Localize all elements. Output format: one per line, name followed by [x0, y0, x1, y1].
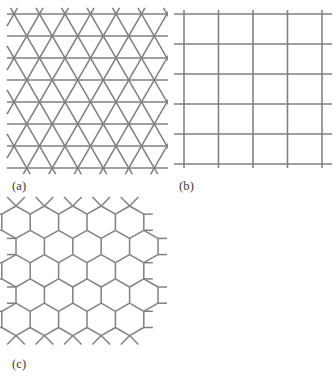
boundary-stub-top: [36, 197, 45, 206]
lattice-line-diagonal-left: [49, 8, 145, 174]
panel-triangular-lattice: [0, 0, 168, 176]
panel-label-c: (c): [12, 358, 26, 371]
boundary-stub-bottom: [73, 336, 82, 345]
hexagon-edge-diagonal: [44, 303, 58, 311]
hexagon-edge-diagonal: [101, 255, 115, 263]
hexagon-edge-diagonal: [101, 230, 115, 238]
hexagon-edge-diagonal: [2, 255, 16, 263]
hexagon-edge-diagonal: [87, 328, 101, 336]
hexagon-edge-diagonal: [73, 303, 87, 311]
boundary-stub-top: [16, 197, 25, 206]
hexagon-edge-diagonal: [87, 279, 101, 287]
hexagon-edge-diagonal: [87, 230, 101, 238]
boundary-stub-bottom: [101, 336, 110, 345]
boundary-stub-bottom: [64, 336, 73, 345]
hexagon-edge-diagonal: [101, 303, 115, 311]
hexagon-edge-diagonal: [2, 303, 16, 311]
hexagon-edge-diagonal: [2, 328, 16, 336]
hexagon-edge-diagonal: [59, 328, 73, 336]
hexagon-edge-diagonal: [87, 206, 101, 214]
hexagon-edge-diagonal: [2, 206, 16, 214]
hexagon-edge-diagonal: [16, 206, 30, 214]
boundary-stub-bottom: [121, 336, 130, 345]
hexagon-edge-diagonal: [73, 206, 87, 214]
hexagon-edge-diagonal: [2, 279, 16, 287]
square-lattice-drawing: [168, 0, 336, 176]
boundary-stub-bottom: [7, 336, 16, 345]
boundary-stub-top: [64, 197, 73, 206]
hexagon-edge-diagonal: [130, 230, 144, 238]
lattice-figure: (a) (b) (c): [0, 0, 336, 388]
hexagon-edge-diagonal: [73, 328, 87, 336]
boundary-stub-bottom: [44, 336, 53, 345]
hexagon-edge-diagonal: [115, 255, 129, 263]
hexagon-edge-diagonal: [59, 255, 73, 263]
hexagon-edge-diagonal: [44, 255, 58, 263]
boundary-stub-bottom: [16, 336, 25, 345]
hexagon-edge-diagonal: [115, 328, 129, 336]
boundary-stub-bottom: [36, 336, 45, 345]
hexagon-edge-diagonal: [16, 255, 30, 263]
lattice-line-diagonal-right: [36, 8, 132, 174]
hexagon-edge-diagonal: [30, 230, 44, 238]
hexagon-edge-diagonal: [87, 255, 101, 263]
hexagon-edge-diagonal: [130, 303, 144, 311]
hexagon-edge-diagonal: [59, 279, 73, 287]
hexagon-edge-diagonal: [73, 255, 87, 263]
boundary-stub-top: [130, 197, 139, 206]
hexagon-edge-diagonal: [73, 230, 87, 238]
hexagon-edge-diagonal: [73, 279, 87, 287]
hexagon-edge-diagonal: [144, 303, 158, 311]
hexagon-edge-diagonal: [59, 230, 73, 238]
hexagon-edge-diagonal: [130, 255, 144, 263]
hexagon-edge-diagonal: [101, 279, 115, 287]
hexagon-edge-diagonal: [59, 303, 73, 311]
hexagon-edge-diagonal: [30, 303, 44, 311]
lattice-line-diagonal-left: [100, 46, 168, 174]
boundary-stub-top: [73, 197, 82, 206]
panel-label-b: (b): [179, 180, 194, 193]
boundary-stub-top: [92, 197, 101, 206]
hexagon-edge-diagonal: [115, 303, 129, 311]
hexagon-edge-diagonal: [130, 279, 144, 287]
hexagon-edge-diagonal: [101, 206, 115, 214]
boundary-stub-top: [121, 197, 130, 206]
panel-label-a: (a): [12, 180, 26, 193]
hexagon-edge-diagonal: [16, 303, 30, 311]
boundary-stub-bottom: [130, 336, 139, 345]
panel-square-lattice: [168, 0, 336, 176]
hexagon-edge-diagonal: [101, 328, 115, 336]
hexagon-edge-diagonal: [16, 230, 30, 238]
hexagon-edge-diagonal: [115, 230, 129, 238]
panel-honeycomb-lattice: [0, 194, 168, 354]
lattice-line-diagonal-left: [74, 8, 168, 174]
hexagon-edge-diagonal: [16, 328, 30, 336]
hexagon-edge-diagonal: [2, 230, 16, 238]
hexagon-edge-diagonal: [144, 230, 158, 238]
lattice-line-diagonal-right: [10, 8, 106, 174]
hexagon-edge-diagonal: [115, 206, 129, 214]
triangular-lattice-drawing: [0, 0, 168, 176]
boundary-stub-top: [44, 197, 53, 206]
lattice-line-diagonal-left: [7, 8, 94, 158]
lattice-line-diagonal-right: [61, 8, 157, 174]
hexagon-edge-diagonal: [87, 303, 101, 311]
hexagon-edge-diagonal: [30, 206, 44, 214]
boundary-stub-bottom: [92, 336, 101, 345]
hexagon-edge-diagonal: [30, 279, 44, 287]
hexagon-edge-diagonal: [144, 255, 158, 263]
hexagon-edge-diagonal: [130, 206, 144, 214]
hexagon-edge-diagonal: [144, 279, 158, 287]
hexagon-edge-diagonal: [130, 328, 144, 336]
boundary-stub-top: [101, 197, 110, 206]
hexagon-edge-diagonal: [115, 279, 129, 287]
hexagon-edge-diagonal: [44, 279, 58, 287]
hexagon-edge-diagonal: [44, 230, 58, 238]
honeycomb-lattice-drawing: [0, 194, 168, 354]
lattice-line-diagonal-left: [23, 8, 119, 174]
hexagon-edge-diagonal: [44, 206, 58, 214]
boundary-stub-top: [7, 197, 16, 206]
hexagon-edge-diagonal: [59, 206, 73, 214]
hexagon-edge-diagonal: [16, 279, 30, 287]
hexagon-edge-diagonal: [44, 328, 58, 336]
